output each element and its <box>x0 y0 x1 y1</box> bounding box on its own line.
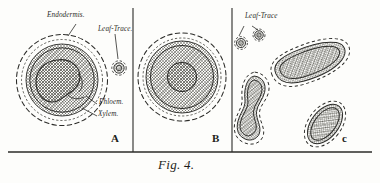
panel-letter-b: B <box>212 132 219 144</box>
figure-drawing <box>0 0 380 183</box>
figure-caption: Fig. 4. <box>158 157 194 173</box>
figure-4-plate: Endodermis. Leaf-Trace. Phloem. Xylem. L… <box>0 0 380 183</box>
panel-c-leaf-trace-bundle-2 <box>253 29 265 41</box>
panel-c-leaf-trace-bundle-1 <box>235 37 248 50</box>
panel-c-meristele-upper <box>266 28 356 96</box>
panel-b-drawing <box>138 33 226 121</box>
panel-c-meristele-left <box>233 71 271 146</box>
panel-a-endodermis-leader <box>68 24 76 36</box>
panel-c-meristele-lower <box>296 93 354 154</box>
panel-letter-c: c <box>342 132 347 144</box>
panel-c-leaftrace-leader <box>239 26 244 36</box>
label-leaf-trace-a: Leaf-Trace. <box>98 26 132 33</box>
label-leaf-trace-c: Leaf-Trace <box>245 13 278 20</box>
panel-b-pith-disc <box>168 63 197 92</box>
panel-letter-a: A <box>111 132 119 144</box>
panel-a-leaf-trace-bundle <box>112 61 126 75</box>
label-endodermis: Endodermis. <box>47 12 85 19</box>
label-xylem: Xylem. <box>98 111 118 118</box>
label-phloem: Phloem. <box>99 99 123 106</box>
panel-c-leaftrace-leader-2 <box>252 26 258 30</box>
panel-a-leaftrace-leader <box>115 34 118 59</box>
panel-c-drawing <box>233 26 356 155</box>
